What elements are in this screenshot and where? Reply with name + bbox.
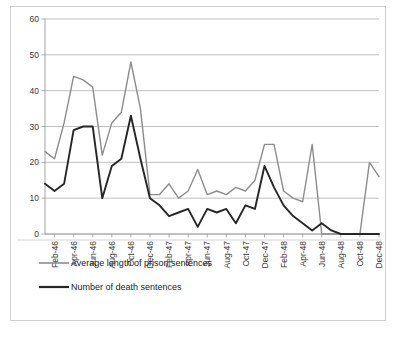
y-axis-label: 30 xyxy=(30,122,40,132)
legend-label-2: Number of death sentences xyxy=(71,282,182,292)
y-axis-label: 50 xyxy=(30,50,40,60)
legend-label-1: Average length of prison sentences xyxy=(71,258,212,268)
y-axis-label: 60 xyxy=(30,14,40,24)
y-axis-label: 0 xyxy=(34,229,39,239)
y-axis-label: 40 xyxy=(30,86,40,96)
chart-container: 0102030405060Feb-46Apr-46Jun-46Aug-46Oct… xyxy=(10,6,386,321)
y-axis-label: 10 xyxy=(30,193,40,203)
chart-figure: 0102030405060Feb-46Apr-46Jun-46Aug-46Oct… xyxy=(0,0,397,340)
series-line-2 xyxy=(45,116,379,234)
legend: Average length of prison sentencesNumber… xyxy=(11,239,387,319)
y-axis-label: 20 xyxy=(30,157,40,167)
